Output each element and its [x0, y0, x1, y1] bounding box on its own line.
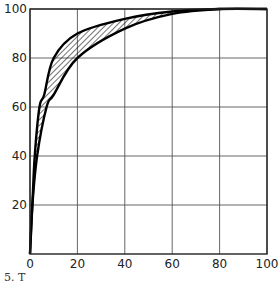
y-tick-label: 60: [12, 100, 27, 114]
y-tick-label: 20: [12, 198, 27, 212]
x-axis-ticks: 020406080100: [26, 257, 278, 271]
hatched-band: [30, 9, 267, 254]
y-axis-ticks: 20406080100: [4, 2, 27, 212]
figure-caption: 5. T: [4, 271, 25, 284]
y-tick-label: 80: [12, 51, 27, 65]
x-tick-label: 100: [256, 257, 279, 271]
y-tick-label: 100: [4, 2, 27, 16]
y-tick-label: 40: [12, 149, 27, 163]
x-tick-label: 60: [165, 257, 180, 271]
x-tick-label: 20: [70, 257, 85, 271]
x-tick-label: 0: [26, 257, 34, 271]
x-tick-label: 40: [117, 257, 132, 271]
x-tick-label: 80: [212, 257, 227, 271]
